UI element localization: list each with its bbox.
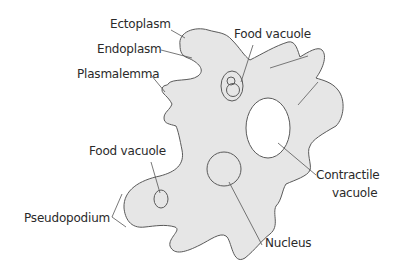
label-contractile-vacuole-line1: Contractile [316,168,379,182]
amoeba-diagram: Ectoplasm Endoplasm Plasmalemma Food vac… [0,0,400,275]
leader-ectoplasm [171,30,185,38]
label-plasmalemma: Plasmalemma [77,67,159,81]
contractile-vacuole [246,98,290,158]
label-contractile-vacuole-line2: vacuole [332,186,377,200]
label-endoplasm: Endoplasm [97,42,162,56]
label-ectoplasm: Ectoplasm [110,17,171,31]
label-food-vacuole-top: Food vacuole [234,27,311,41]
label-food-vacuole-left: Food vacuole [89,144,166,158]
label-nucleus: Nucleus [265,236,311,250]
amoeba-illustration [0,0,400,275]
label-pseudopodium: Pseudopodium [24,211,110,225]
